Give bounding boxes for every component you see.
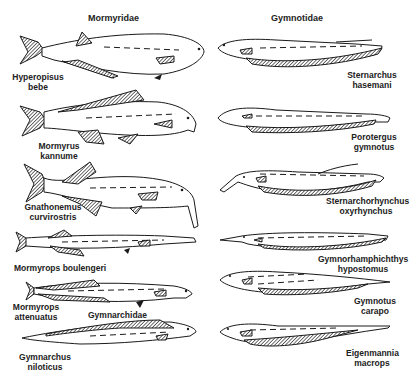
fish-gymnotus-carapo xyxy=(218,268,394,298)
fish-sternarchorhynchus-oxyrhynchus xyxy=(218,160,390,200)
label-gymnotus-carapo: Gymnotus carapo xyxy=(352,296,398,316)
fish-eigenmannia-macrops xyxy=(218,320,394,350)
fish-sternarchus-hasemani xyxy=(216,36,386,72)
label-sternarchus-hasemani: Sternarchus hasemani xyxy=(346,70,398,90)
electric-fish-diagram: Mormyridae Gymnotidae Hyperopisus bebe M… xyxy=(0,0,419,379)
label-mormyrus-kannume: Mormyrus kannume xyxy=(34,141,84,161)
label-eigenmannia-macrops: Eigenmannia macrops xyxy=(346,348,398,368)
family-title-mormyridae: Mormyridae xyxy=(88,13,139,23)
fish-gymnorhamphichthys-hypostomus xyxy=(218,228,392,254)
label-gymnarchus-niloticus: Gymnarchus niloticus xyxy=(18,352,72,372)
label-gnathonemus-curvirostris: Gnathonemus curvirostris xyxy=(22,202,84,222)
family-title-gymnotidae: Gymnotidae xyxy=(271,13,323,23)
label-porotergus-gymnotus: Porotergus gymnotus xyxy=(350,132,398,152)
fish-mormyrus-kannume xyxy=(18,88,198,148)
label-mormyrops-boulengeri: Mormyrops boulengeri xyxy=(14,263,106,273)
fish-gymnarchus-niloticus xyxy=(20,318,198,348)
fish-mormyrops-boulengeri xyxy=(14,228,198,258)
label-sternarchorhynchus-oxyrhynchus: Sternarchorhynchus oxyrhynchus xyxy=(326,196,406,216)
